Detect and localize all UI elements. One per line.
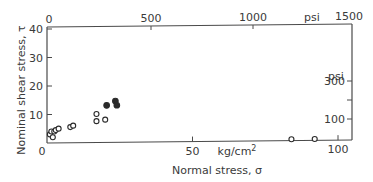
open-data-point: [56, 126, 61, 131]
top-axis: [47, 24, 352, 27]
y-tick-label: 40: [29, 23, 43, 36]
y-tick-label: 20: [29, 80, 43, 93]
top-tick-label: 0: [46, 13, 53, 26]
open-data-point: [103, 117, 108, 122]
data-points: [47, 98, 317, 141]
x-axis-title: Normal stress, σ: [172, 164, 262, 177]
x-axis-unit: kg/cm2: [218, 144, 257, 158]
open-data-point: [94, 112, 99, 117]
x-tick-label: 100: [328, 143, 349, 156]
y-tick-label: 10: [29, 109, 43, 122]
right-axis-unit: psi: [328, 70, 344, 83]
top-tick-label: 1000: [239, 11, 267, 24]
y-axis-title: Nominal shear stress, τ: [15, 25, 28, 155]
open-data-point: [312, 136, 317, 141]
open-data-point: [71, 123, 76, 128]
open-data-point: [50, 135, 55, 140]
y-tick-label: 30: [29, 52, 43, 65]
axes: [47, 24, 352, 143]
top-axis-unit: psi: [304, 11, 320, 24]
right-tick-label: 100: [324, 113, 345, 126]
filled-data-point: [114, 102, 120, 108]
open-data-point: [289, 137, 294, 142]
filled-data-point: [104, 103, 110, 109]
tick-marks: [47, 25, 352, 142]
top-tick-label: 500: [141, 12, 162, 25]
tick-labels: 5010010203040050010001500100300: [29, 10, 363, 158]
y-origin-label: 0: [39, 145, 46, 158]
bottom-axis: [47, 140, 352, 143]
open-data-point: [94, 119, 99, 124]
x-tick-label: 50: [186, 145, 200, 158]
top-tick-label: 1500: [335, 10, 363, 23]
scatter-chart: 5010010203040050010001500100300 psi psi …: [0, 0, 373, 182]
